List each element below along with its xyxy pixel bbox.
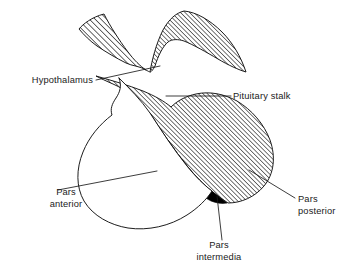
label-pars-anterior-line1: Pars [56, 187, 76, 197]
label-hypothalamus: Hypothalamus [32, 75, 93, 85]
label-pars-anterior-line2: anterior [50, 199, 83, 209]
label-pars-intermedia-line2: intermedia [197, 252, 243, 262]
label-pituitary-stalk: Pituitary stalk [233, 91, 291, 101]
label-pars-posterior-line1: Pars [298, 194, 318, 204]
pituitary-diagram-svg: Hypothalamus Pituitary stalk Pars anteri… [0, 0, 350, 276]
label-pars-intermedia-line1: Pars [209, 240, 229, 250]
label-pars-posterior-line2: posterior [298, 206, 336, 216]
anatomy-diagram: Hypothalamus Pituitary stalk Pars anteri… [0, 0, 350, 276]
